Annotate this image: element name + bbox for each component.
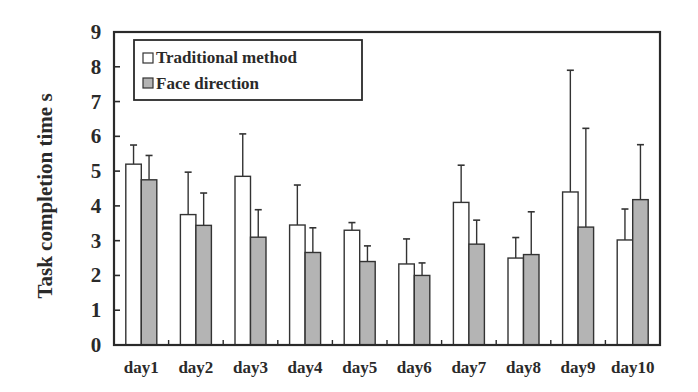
y-axis: 0123456789: [91, 20, 120, 357]
bar-traditional-day2: [180, 215, 196, 345]
bar-face-day6: [414, 275, 430, 345]
bar-face-day3: [251, 237, 267, 345]
bar-traditional-day9: [563, 192, 579, 345]
bar-face-day5: [360, 262, 376, 345]
bar-traditional-day10: [617, 240, 633, 345]
y-tick-label: 6: [91, 124, 102, 148]
bars: [126, 70, 648, 345]
x-tick-label: day9: [561, 358, 596, 377]
bar-face-day4: [305, 252, 321, 345]
bar-traditional-day1: [126, 164, 142, 345]
y-tick-label: 7: [91, 90, 102, 114]
x-tick-label: day5: [342, 358, 377, 377]
x-tick-label: day3: [233, 358, 268, 377]
legend-label-face: Face direction: [156, 74, 260, 93]
x-axis: day1day2day3day4day5day6day7day8day9day1…: [124, 358, 655, 377]
x-tick-label: day2: [178, 358, 213, 377]
legend-label-traditional: Traditional method: [156, 48, 297, 67]
y-tick-label: 5: [91, 159, 102, 183]
bar-traditional-day4: [290, 225, 306, 345]
bar-traditional-day8: [508, 258, 524, 345]
bar-face-day1: [141, 180, 157, 345]
y-axis-label: Task completion time s: [33, 93, 57, 298]
bar-chart: 0123456789 day1day2day3day4day5day6day7d…: [0, 0, 698, 392]
bar-traditional-day6: [399, 264, 415, 345]
bar-face-day7: [469, 244, 485, 345]
bar-traditional-day5: [344, 230, 360, 345]
bar-traditional-day3: [235, 176, 251, 345]
y-tick-label: 1: [91, 298, 102, 322]
y-tick-label: 8: [91, 55, 102, 79]
y-tick-label: 3: [91, 229, 102, 253]
y-tick-label: 2: [91, 263, 102, 287]
bar-traditional-day7: [453, 202, 469, 345]
bar-face-day2: [196, 225, 212, 345]
bar-face-day10: [633, 200, 649, 345]
y-tick-label: 4: [91, 194, 102, 218]
x-tick-label: day8: [506, 358, 541, 377]
x-tick-label: day1: [124, 358, 159, 377]
x-tick-label: day6: [397, 358, 432, 377]
bar-face-day8: [524, 255, 540, 345]
x-tick-label: day7: [451, 358, 486, 377]
x-tick-label: day4: [288, 358, 323, 377]
legend-swatch-traditional: [143, 53, 153, 63]
x-tick-label: day10: [611, 358, 654, 377]
legend-swatch-face: [143, 78, 153, 88]
legend: Traditional method Face direction: [134, 40, 362, 100]
y-tick-label: 9: [91, 20, 102, 44]
y-tick-label: 0: [91, 333, 102, 357]
bar-face-day9: [578, 227, 594, 345]
